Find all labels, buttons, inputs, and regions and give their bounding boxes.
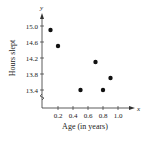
y-tick-label: 14.2	[26, 55, 39, 63]
x-tick-label: 0.8	[99, 112, 108, 120]
data-point	[48, 28, 52, 32]
x-tick-label: 1.0	[114, 112, 123, 120]
y-axis: y 13.413.814.214.615.0	[26, 4, 44, 108]
chart-canvas: y 13.413.814.214.615.0 x 0.20.40.60.81.0…	[0, 0, 147, 142]
x-tick-label: 0.4	[69, 112, 78, 120]
y-tick-label: 13.8	[26, 71, 39, 79]
y-tick-label: 13.4	[26, 87, 39, 95]
y-axis-arrow-icon	[40, 13, 44, 19]
x-axis: x 0.20.40.60.81.0	[42, 105, 141, 120]
x-tick-label: 0.2	[54, 112, 63, 120]
data-point	[93, 60, 97, 64]
data-points	[48, 28, 112, 92]
data-point	[108, 76, 112, 80]
x-axis-label: Age (in years)	[62, 122, 108, 131]
y-axis-symbol: y	[39, 4, 44, 12]
data-point	[101, 88, 105, 92]
y-tick-label: 15.0	[26, 23, 39, 31]
y-tick-label: 14.6	[26, 39, 39, 47]
x-axis-arrow-icon	[129, 106, 135, 110]
data-point	[56, 44, 60, 48]
scatter-chart: y 13.413.814.214.615.0 x 0.20.40.60.81.0…	[0, 0, 147, 142]
data-point	[78, 88, 82, 92]
y-axis-label: Hours slept	[8, 39, 17, 76]
x-axis-symbol: x	[136, 105, 141, 113]
x-tick-label: 0.6	[84, 112, 93, 120]
